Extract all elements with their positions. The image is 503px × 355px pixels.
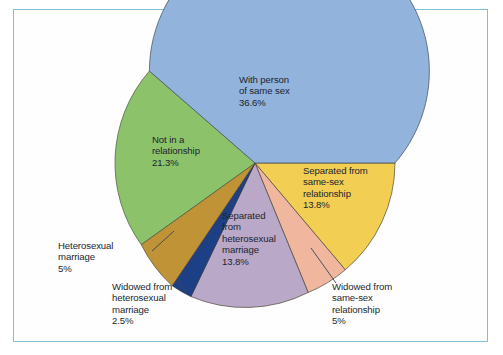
callout-label-heterosexual-marriage: Heterosexual marriage 5% bbox=[58, 240, 153, 274]
page-root: With person of same sex 36.6% Not in a r… bbox=[0, 0, 503, 355]
slice-label-not-in-relationship: Not in a relationship 21.3% bbox=[152, 134, 244, 168]
slice-label-separated-same-sex: Separated from same-sex relationship 13.… bbox=[303, 165, 398, 211]
callout-label-widowed-same-sex: Widowed from same-sex relationship 5% bbox=[332, 281, 427, 327]
callout-label-widowed-heterosexual: Widowed from heterosexual marriage 2.5% bbox=[112, 281, 207, 327]
pie-chart: With person of same sex 36.6% Not in a r… bbox=[0, 0, 503, 355]
slice-label-separated-heterosexual: Separated from heterosexual marriage 13.… bbox=[222, 210, 302, 267]
pie-chart-svg bbox=[0, 0, 503, 355]
slice-label-with-person-same-sex: With person of same sex 36.6% bbox=[239, 74, 331, 108]
